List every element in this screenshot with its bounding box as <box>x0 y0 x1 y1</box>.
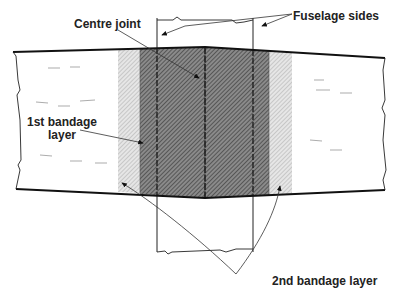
first-bandage-label-line2: layer <box>27 129 97 142</box>
second-bandage-label: 2nd bandage layer <box>272 275 377 288</box>
second-bandage-right-strip <box>269 51 292 195</box>
bandage-diagram <box>0 0 397 295</box>
first-bandage-label: 1st bandage layer <box>27 116 97 142</box>
centre-joint-label: Centre joint <box>74 18 141 31</box>
second-bandage-left-strip <box>118 50 140 193</box>
fuselage-sides-label: Fuselage sides <box>293 10 379 23</box>
